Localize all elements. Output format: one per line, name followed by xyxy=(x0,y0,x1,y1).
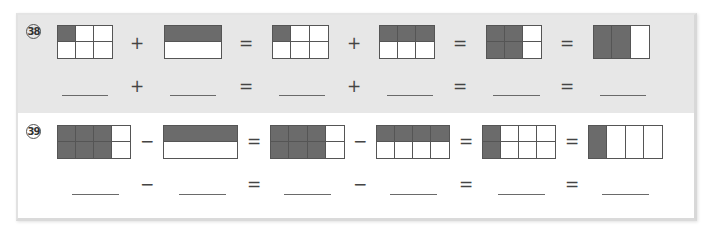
shaded-cell xyxy=(58,126,76,142)
fraction-diagram xyxy=(486,25,542,59)
shaded-cell xyxy=(165,26,221,42)
empty-cell xyxy=(413,142,431,158)
plus-sign: + xyxy=(347,78,361,95)
empty-cell xyxy=(310,42,328,58)
equals-sign: = xyxy=(459,133,473,150)
answer-blank[interactable] xyxy=(493,95,540,96)
fraction-diagram xyxy=(376,125,450,159)
empty-cell xyxy=(112,126,130,142)
equals-sign: = xyxy=(459,176,473,193)
shaded-cell xyxy=(164,126,237,142)
shaded-cell xyxy=(58,26,76,42)
empty-cell xyxy=(398,42,416,58)
answer-blank[interactable] xyxy=(179,194,226,195)
shaded-cell xyxy=(505,26,523,42)
shaded-cell xyxy=(483,142,501,158)
shaded-cell xyxy=(273,26,291,42)
empty-cell xyxy=(94,42,112,58)
equals-sign: = xyxy=(560,78,574,95)
shaded-cell xyxy=(76,126,94,142)
shaded-cell xyxy=(487,26,505,42)
empty-cell xyxy=(626,126,644,158)
shaded-cell xyxy=(58,142,76,158)
fraction-diagram xyxy=(593,25,650,59)
empty-cell xyxy=(395,142,413,158)
equals-sign: = xyxy=(565,176,579,193)
shaded-cell xyxy=(594,26,612,58)
problem-number: 39 xyxy=(26,124,41,139)
fraction-diagram xyxy=(482,125,556,159)
empty-cell xyxy=(537,126,555,142)
shaded-cell xyxy=(377,126,395,142)
shaded-cell xyxy=(589,126,607,158)
shaded-cell xyxy=(308,126,326,142)
equals-sign: = xyxy=(247,176,261,193)
empty-cell xyxy=(607,126,625,158)
shaded-cell xyxy=(289,142,307,158)
plus-sign: + xyxy=(130,35,144,52)
empty-cell xyxy=(523,26,541,42)
empty-cell xyxy=(326,142,344,158)
minus-sign: − xyxy=(140,133,154,150)
answer-blank[interactable] xyxy=(390,194,437,195)
empty-cell xyxy=(523,42,541,58)
empty-cell xyxy=(76,42,94,58)
shaded-cell xyxy=(483,126,501,142)
fraction-diagram xyxy=(270,125,345,159)
equals-sign: = xyxy=(247,133,261,150)
fraction-diagram xyxy=(57,125,131,159)
empty-cell xyxy=(58,42,76,58)
shaded-cell xyxy=(395,126,413,142)
empty-cell xyxy=(380,42,398,58)
shaded-cell xyxy=(94,142,112,158)
answer-blank[interactable] xyxy=(600,95,646,96)
minus-sign: − xyxy=(353,176,367,193)
empty-cell xyxy=(291,26,309,42)
minus-sign: − xyxy=(140,176,154,193)
empty-cell xyxy=(377,142,395,158)
fraction-diagram xyxy=(163,125,238,159)
equals-sign: = xyxy=(453,35,467,52)
fraction-diagram xyxy=(57,25,113,59)
shaded-cell xyxy=(271,126,289,142)
problem-number: 38 xyxy=(26,24,41,39)
shaded-cell xyxy=(612,26,630,58)
empty-cell xyxy=(501,126,519,142)
fraction-diagram xyxy=(588,125,663,159)
shaded-cell xyxy=(487,42,505,58)
answer-blank[interactable] xyxy=(170,95,216,96)
empty-cell xyxy=(291,42,309,58)
empty-cell xyxy=(431,142,449,158)
equals-sign: = xyxy=(560,35,574,52)
empty-cell xyxy=(631,26,649,58)
equals-sign: = xyxy=(239,78,253,95)
fraction-diagram xyxy=(164,25,222,59)
shaded-cell xyxy=(505,42,523,58)
shaded-cell xyxy=(416,26,434,42)
fraction-diagram xyxy=(379,25,435,59)
answer-blank[interactable] xyxy=(284,194,331,195)
answer-blank[interactable] xyxy=(387,95,433,96)
shaded-cell xyxy=(271,142,289,158)
answer-blank[interactable] xyxy=(602,194,649,195)
plus-sign: + xyxy=(130,78,144,95)
fraction-diagram xyxy=(272,25,329,59)
shaded-cell xyxy=(289,126,307,142)
answer-blank[interactable] xyxy=(72,194,119,195)
empty-cell xyxy=(76,26,94,42)
answer-blank[interactable] xyxy=(498,194,545,195)
equals-sign: = xyxy=(453,78,467,95)
answer-blank[interactable] xyxy=(279,95,325,96)
shaded-cell xyxy=(380,26,398,42)
shaded-cell xyxy=(308,142,326,158)
empty-cell xyxy=(310,26,328,42)
answer-blank[interactable] xyxy=(62,95,108,96)
shaded-cell xyxy=(76,142,94,158)
shaded-cell xyxy=(94,126,112,142)
empty-cell xyxy=(537,142,555,158)
empty-cell xyxy=(94,26,112,42)
shaded-cell xyxy=(413,126,431,142)
empty-cell xyxy=(164,142,237,158)
empty-cell xyxy=(165,42,221,58)
empty-cell xyxy=(112,142,130,158)
